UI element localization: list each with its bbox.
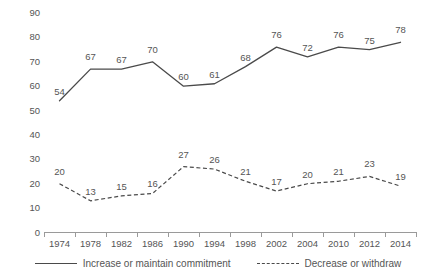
- legend-item-decrease-or-withdraw[interactable]: Decrease or withdraw: [257, 258, 402, 270]
- legend-item-label: Increase or maintain commitment: [83, 258, 231, 270]
- legend-item-label: Decrease or withdraw: [305, 258, 402, 270]
- y-tick-label: 0: [2, 228, 40, 238]
- y-tick-label: 20: [2, 179, 40, 189]
- data-point-label: 72: [302, 43, 313, 53]
- data-point-label: 20: [54, 167, 65, 177]
- data-point-label: 15: [116, 182, 127, 192]
- x-tick-label: 1974: [49, 237, 70, 251]
- data-point-label: 13: [85, 187, 96, 197]
- data-point-label: 17: [271, 177, 282, 187]
- x-axis-tick: [416, 232, 417, 237]
- data-point-label: 27: [178, 150, 189, 160]
- x-tick-label: 1994: [204, 237, 225, 251]
- series-line-decrease-or-withdraw: [60, 167, 401, 201]
- data-point-label: 20: [302, 170, 313, 180]
- legend-line-solid-icon: [35, 260, 77, 268]
- data-point-label: 19: [395, 172, 406, 182]
- data-point-label: 76: [333, 30, 344, 40]
- x-tick-label: 2010: [328, 237, 349, 251]
- data-point-label: 23: [364, 159, 375, 169]
- data-point-label: 21: [333, 167, 344, 177]
- y-axis-labels: 9080706050403020100: [0, 0, 40, 245]
- data-point-label: 26: [209, 155, 220, 165]
- x-tick-label: 2004: [297, 237, 318, 251]
- data-point-label: 78: [395, 25, 406, 35]
- data-point-label: 60: [178, 72, 189, 82]
- y-tick-label: 80: [2, 32, 40, 42]
- y-tick-label: 30: [2, 154, 40, 164]
- x-axis-labels: 1974197819821986199019941998200220042010…: [44, 237, 416, 253]
- data-point-label: 68: [240, 53, 251, 63]
- data-point-label: 61: [209, 70, 220, 80]
- line-chart: 9080706050403020100 19741978198219861990…: [0, 0, 436, 278]
- legend-item-increase-or-maintain-commitment[interactable]: Increase or maintain commitment: [35, 258, 231, 270]
- data-point-label: 16: [147, 179, 158, 189]
- data-point-label: 70: [147, 45, 158, 55]
- chart-legend: Increase or maintain commitment Decrease…: [0, 255, 436, 273]
- data-point-label: 67: [85, 52, 96, 62]
- x-tick-label: 1982: [111, 237, 132, 251]
- x-tick-label: 2014: [390, 237, 411, 251]
- x-tick-label: 2002: [266, 237, 287, 251]
- y-tick-label: 70: [2, 57, 40, 67]
- data-point-label: 76: [271, 30, 282, 40]
- x-tick-label: 1986: [142, 237, 163, 251]
- data-point-label: 67: [116, 55, 127, 65]
- y-tick-label: 10: [2, 203, 40, 213]
- x-tick-label: 2012: [359, 237, 380, 251]
- x-tick-label: 1978: [80, 237, 101, 251]
- data-point-label: 54: [54, 87, 65, 97]
- legend-line-dashed-icon: [257, 260, 299, 268]
- y-tick-label: 90: [2, 8, 40, 18]
- y-tick-label: 40: [2, 130, 40, 140]
- data-point-label: 75: [364, 36, 375, 46]
- x-tick-label: 1990: [173, 237, 194, 251]
- y-tick-label: 50: [2, 106, 40, 116]
- y-tick-label: 60: [2, 81, 40, 91]
- series-line-increase-or-maintain-commitment: [60, 42, 401, 101]
- x-tick-label: 1998: [235, 237, 256, 251]
- data-point-label: 21: [240, 167, 251, 177]
